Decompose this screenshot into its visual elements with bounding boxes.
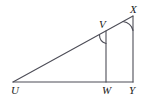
vertex-label-u: U bbox=[11, 84, 20, 96]
angle-arc-v-icon bbox=[99, 35, 106, 44]
angle-arc-x-icon bbox=[123, 22, 133, 31]
geometry-diagram: U V W X Y bbox=[0, 0, 145, 96]
segment-ux bbox=[13, 16, 133, 82]
vertex-label-v: V bbox=[99, 18, 107, 30]
geometry-figure: U V W X Y bbox=[0, 0, 145, 96]
vertex-label-y: Y bbox=[129, 84, 137, 96]
vertex-label-x: X bbox=[129, 3, 138, 15]
vertex-label-w: W bbox=[102, 84, 112, 96]
